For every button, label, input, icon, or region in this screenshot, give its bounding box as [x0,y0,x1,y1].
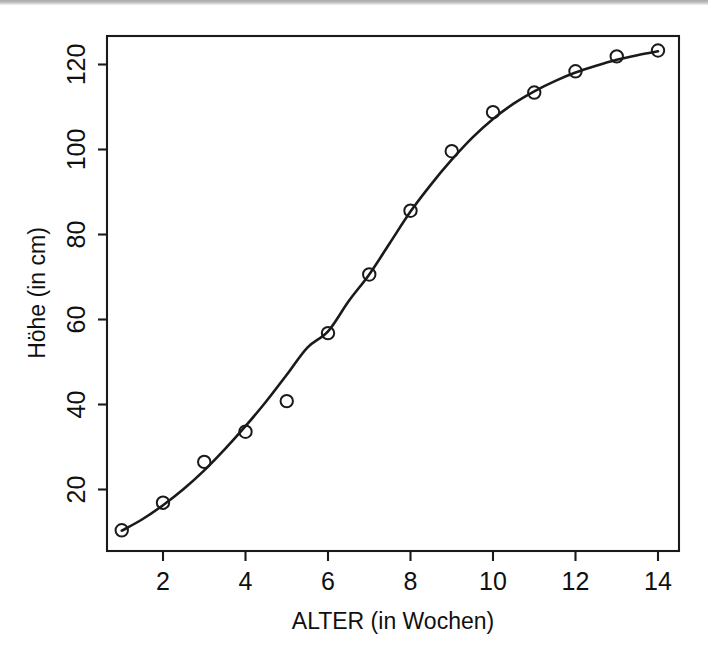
data-point-marker [446,145,458,157]
x-tick-label-14: 14 [644,567,672,595]
chart-figure: 20 40 60 80 100 120 2 4 6 8 10 12 14 [0,0,708,653]
data-point-marker [198,456,210,468]
plot-frame [107,36,679,551]
y-tick-label-100: 100 [62,129,90,171]
y-tick-label-120: 120 [62,44,90,86]
x-axis-tick-labels: 2 4 6 8 10 12 14 [156,567,672,595]
x-tick-label-2: 2 [156,567,170,595]
y-axis-tick-labels: 20 40 60 80 100 120 [62,44,90,504]
fitted-growth-curve [122,51,658,530]
x-tick-label-4: 4 [239,567,253,595]
data-point-marker [487,106,499,118]
y-tick-label-20: 20 [62,476,90,504]
y-tick-label-60: 60 [62,306,90,334]
y-axis-ticks [98,65,107,490]
data-point-group [116,44,665,536]
y-axis-title: Höhe (in cm) [24,227,50,359]
x-tick-label-6: 6 [321,567,335,595]
x-axis-title: ALTER (in Wochen) [292,608,494,634]
x-axis-ticks [163,551,658,561]
y-tick-label-40: 40 [62,391,90,419]
x-tick-label-10: 10 [479,567,507,595]
x-tick-label-8: 8 [404,567,418,595]
data-point-marker [281,395,293,407]
scatter-plot-canvas: 20 40 60 80 100 120 2 4 6 8 10 12 14 [0,0,708,653]
y-tick-label-80: 80 [62,221,90,249]
x-tick-label-12: 12 [562,567,590,595]
